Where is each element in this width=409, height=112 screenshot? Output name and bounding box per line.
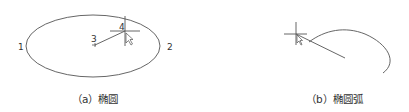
figure-b-elliptical-arc — [284, 22, 390, 73]
point-label-2: 2 — [167, 42, 173, 52]
arc-shape — [309, 30, 390, 73]
arc-radius-line — [296, 34, 345, 58]
ellipse-shape — [26, 15, 160, 77]
cursor-arrow-icon — [126, 33, 133, 45]
point-label-4: 4 — [119, 22, 125, 32]
axis-line — [95, 31, 125, 45]
point-label-1: 1 — [18, 42, 24, 52]
caption-b: （b）椭圆弧 — [306, 91, 363, 106]
figure-a-ellipse: 1 2 3 4 — [18, 15, 173, 77]
point-label-3: 3 — [91, 34, 97, 44]
caption-a: （a）椭圆 — [72, 91, 118, 106]
